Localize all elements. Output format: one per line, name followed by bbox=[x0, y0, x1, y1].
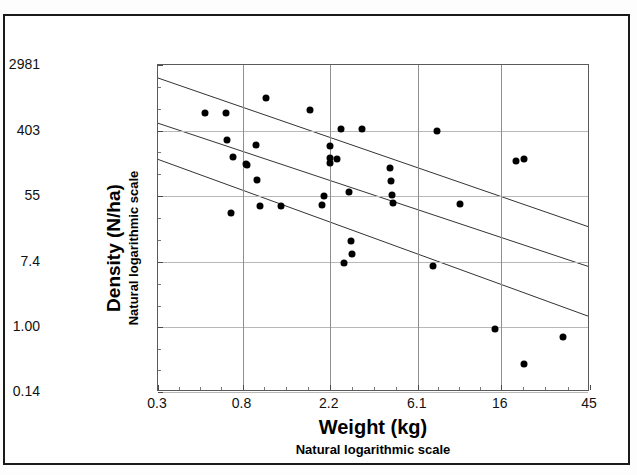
data-point bbox=[341, 259, 348, 266]
data-point bbox=[560, 333, 567, 340]
x-axis-minor-tick bbox=[352, 387, 353, 390]
data-point bbox=[337, 125, 344, 132]
x-axis-title-main: Weight (kg) bbox=[157, 416, 589, 439]
plot-area bbox=[157, 64, 589, 391]
y-axis-title-main: Density (N/ha) bbox=[103, 153, 125, 343]
data-point bbox=[202, 109, 209, 116]
x-axis-tick bbox=[243, 385, 244, 390]
x-axis-minor-tick bbox=[459, 387, 460, 390]
data-point bbox=[318, 201, 325, 208]
y-axis-minor-tick bbox=[158, 87, 161, 88]
x-tick-label: 0.8 bbox=[232, 395, 251, 411]
data-point bbox=[334, 155, 341, 162]
gridline-vertical bbox=[243, 65, 244, 390]
y-axis-minor-tick bbox=[158, 218, 161, 219]
data-point bbox=[230, 154, 237, 161]
x-axis-tick bbox=[158, 385, 159, 390]
y-axis-minor-tick bbox=[158, 109, 161, 110]
x-tick-label: 0.3 bbox=[147, 395, 166, 411]
x-axis-title: Weight (kg) Natural logarithmic scale bbox=[157, 416, 589, 457]
data-point bbox=[386, 164, 393, 171]
data-point bbox=[390, 200, 397, 207]
gridline-vertical bbox=[330, 65, 331, 390]
x-tick-label: 2.2 bbox=[319, 395, 338, 411]
data-point bbox=[243, 162, 250, 169]
x-axis-tick bbox=[418, 385, 419, 390]
y-axis-minor-tick bbox=[158, 370, 161, 371]
data-point bbox=[492, 326, 499, 333]
data-point bbox=[263, 94, 270, 101]
x-tick-label: 45 bbox=[581, 395, 597, 411]
y-axis-minor-tick bbox=[158, 174, 161, 175]
figure-container: Density (N/ha) Natural logarithmic scale… bbox=[0, 0, 637, 475]
y-axis-title: Density (N/ha) Natural logarithmic scale bbox=[103, 153, 141, 343]
data-point bbox=[254, 176, 261, 183]
data-point bbox=[389, 191, 396, 198]
x-axis-minor-tick bbox=[523, 387, 524, 390]
data-point bbox=[457, 201, 464, 208]
x-axis-minor-tick bbox=[545, 387, 546, 390]
y-axis-tick bbox=[158, 131, 163, 132]
data-point bbox=[326, 160, 333, 167]
x-axis-minor-tick bbox=[308, 387, 309, 390]
x-axis-minor-tick bbox=[438, 387, 439, 390]
gridline-horizontal bbox=[158, 327, 588, 328]
data-point bbox=[320, 193, 327, 200]
y-axis-tick bbox=[158, 327, 163, 328]
data-point bbox=[388, 178, 395, 185]
y-axis-minor-tick bbox=[158, 152, 161, 153]
data-point bbox=[433, 127, 440, 134]
x-axis-minor-tick bbox=[286, 387, 287, 390]
data-point bbox=[359, 125, 366, 132]
data-point bbox=[224, 137, 231, 144]
gridline-horizontal bbox=[158, 392, 588, 393]
gridline-horizontal bbox=[158, 262, 588, 263]
x-axis-title-sub: Natural logarithmic scale bbox=[157, 442, 589, 457]
x-axis-minor-tick bbox=[396, 387, 397, 390]
y-tick-label: 1.00 bbox=[13, 318, 40, 334]
data-point bbox=[347, 237, 354, 244]
y-axis-minor-tick bbox=[158, 240, 161, 241]
gridline-horizontal bbox=[158, 131, 588, 132]
data-point bbox=[521, 360, 528, 367]
data-point bbox=[307, 106, 314, 113]
data-point bbox=[257, 203, 264, 210]
y-tick-label: 55 bbox=[24, 187, 40, 203]
x-axis-tick bbox=[590, 385, 591, 390]
data-point bbox=[430, 263, 437, 270]
x-axis-minor-tick bbox=[480, 387, 481, 390]
y-axis-title-wrapper: Density (N/ha) Natural logarithmic scale bbox=[33, 111, 89, 341]
figure-border: Density (N/ha) Natural logarithmic scale… bbox=[3, 14, 630, 465]
y-axis-tick bbox=[158, 65, 163, 66]
x-tick-label: 16 bbox=[492, 395, 508, 411]
y-axis-tick bbox=[158, 392, 163, 393]
data-point bbox=[326, 143, 333, 150]
y-tick-label: 403 bbox=[17, 122, 40, 138]
y-tick-label: 0.14 bbox=[13, 383, 40, 399]
x-axis-tick bbox=[501, 385, 502, 390]
data-point bbox=[222, 110, 229, 117]
regression-fit bbox=[158, 123, 588, 266]
x-axis-minor-tick bbox=[200, 387, 201, 390]
gridline-vertical bbox=[501, 65, 502, 390]
data-point bbox=[349, 250, 356, 257]
lower-confidence-band bbox=[158, 159, 588, 316]
y-axis-title-sub: Natural logarithmic scale bbox=[126, 153, 141, 343]
data-point bbox=[512, 157, 519, 164]
x-axis-tick bbox=[330, 385, 331, 390]
x-tick-label: 6.1 bbox=[407, 395, 426, 411]
y-axis-minor-tick bbox=[158, 306, 161, 307]
data-point bbox=[228, 209, 235, 216]
upper-confidence-band bbox=[158, 78, 588, 227]
x-axis-minor-tick bbox=[568, 387, 569, 390]
y-axis-minor-tick bbox=[158, 349, 161, 350]
y-tick-label: 2981 bbox=[9, 56, 40, 72]
gridline-horizontal bbox=[158, 196, 588, 197]
gridline-vertical bbox=[418, 65, 419, 390]
y-axis-minor-tick bbox=[158, 284, 161, 285]
x-axis-minor-tick bbox=[221, 387, 222, 390]
x-axis-minor-tick bbox=[179, 387, 180, 390]
data-point bbox=[252, 142, 259, 149]
y-tick-label: 7.4 bbox=[21, 253, 40, 269]
x-axis-minor-tick bbox=[374, 387, 375, 390]
